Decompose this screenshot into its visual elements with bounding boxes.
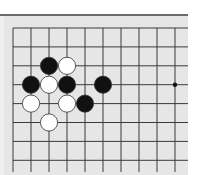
white-stone[interactable] <box>58 95 75 112</box>
black-stone[interactable] <box>94 76 111 93</box>
board-grid[interactable] <box>0 0 197 175</box>
black-stone[interactable] <box>40 57 57 74</box>
white-stone[interactable] <box>40 114 57 131</box>
white-stone[interactable] <box>22 95 39 112</box>
star-points <box>173 83 177 87</box>
black-stone[interactable] <box>22 76 39 93</box>
grid-lines <box>13 28 188 172</box>
black-stone[interactable] <box>76 95 93 112</box>
star-point-icon <box>173 83 177 87</box>
black-stone[interactable] <box>58 76 75 93</box>
white-stone[interactable] <box>40 76 57 93</box>
white-stone[interactable] <box>58 57 75 74</box>
